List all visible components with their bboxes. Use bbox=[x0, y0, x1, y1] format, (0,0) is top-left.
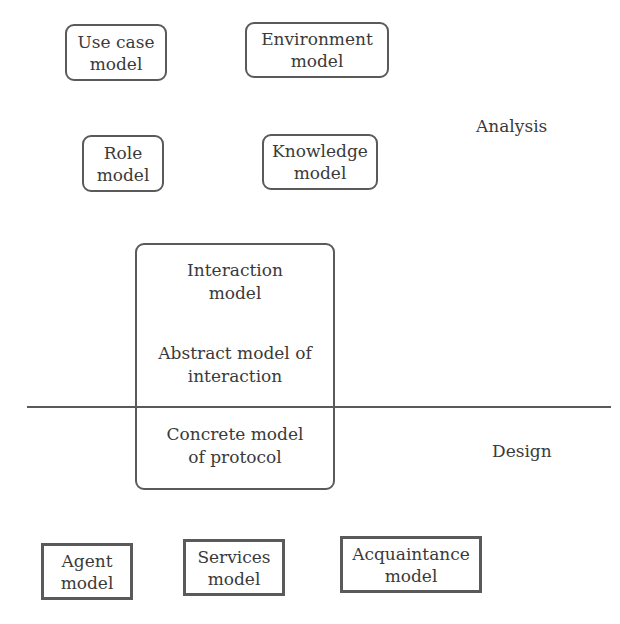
use-case-model-label-line1: Use case bbox=[78, 31, 155, 53]
role-model-label-line1: Role bbox=[104, 142, 143, 164]
services-model-label-line1: Services bbox=[197, 546, 270, 568]
analysis-phase-label: Analysis bbox=[476, 116, 547, 136]
knowledge-model-label-line2: model bbox=[294, 162, 347, 184]
services-model-box: Services model bbox=[183, 539, 285, 596]
agent-model-label-line2: model bbox=[61, 572, 114, 594]
abstract-interaction-line1: Abstract model of bbox=[135, 342, 335, 365]
design-phase-label: Design bbox=[492, 441, 552, 461]
knowledge-model-label-line1: Knowledge bbox=[272, 140, 368, 162]
role-model-label-line2: model bbox=[97, 164, 150, 186]
abstract-interaction-line2: interaction bbox=[135, 365, 335, 388]
concrete-protocol-model: Concrete model of protocol bbox=[135, 423, 335, 469]
knowledge-model-box: Knowledge model bbox=[262, 134, 378, 190]
abstract-interaction-model: Abstract model of interaction bbox=[135, 342, 335, 388]
methodology-diagram: Use case model Environment model Role mo… bbox=[0, 0, 620, 624]
agent-model-label-line1: Agent bbox=[62, 550, 113, 572]
role-model-box: Role model bbox=[82, 135, 164, 192]
acquaintance-model-label-line2: model bbox=[385, 565, 438, 587]
acquaintance-model-box: Acquaintance model bbox=[340, 536, 482, 593]
acquaintance-model-label-line1: Acquaintance bbox=[352, 543, 470, 565]
concrete-protocol-line2: of protocol bbox=[135, 446, 335, 469]
services-model-label-line2: model bbox=[208, 568, 261, 590]
analysis-design-divider bbox=[27, 406, 611, 408]
environment-model-box: Environment model bbox=[245, 22, 389, 78]
interaction-model-title-line1: Interaction bbox=[135, 259, 335, 282]
agent-model-box: Agent model bbox=[41, 543, 133, 600]
concrete-protocol-line1: Concrete model bbox=[135, 423, 335, 446]
environment-model-label-line2: model bbox=[291, 50, 344, 72]
use-case-model-label-line2: model bbox=[90, 53, 143, 75]
use-case-model-box: Use case model bbox=[65, 24, 167, 81]
interaction-model-title: Interaction model bbox=[135, 259, 335, 305]
environment-model-label-line1: Environment bbox=[261, 28, 373, 50]
interaction-model-title-line2: model bbox=[135, 282, 335, 305]
